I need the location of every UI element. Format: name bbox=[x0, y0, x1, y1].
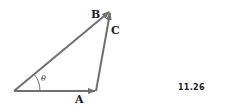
vector-diagram-canvas bbox=[0, 0, 226, 109]
vector-c-label: C bbox=[111, 25, 120, 36]
figure-number: 11.26 bbox=[178, 84, 205, 92]
angle-arc bbox=[34, 74, 40, 91]
vector-a-label: A bbox=[75, 94, 84, 105]
vector-b-label: B bbox=[91, 9, 100, 20]
vector-c-arrow bbox=[96, 13, 110, 91]
vector-b-arrow bbox=[14, 12, 109, 91]
theta-label: θ bbox=[41, 75, 46, 83]
